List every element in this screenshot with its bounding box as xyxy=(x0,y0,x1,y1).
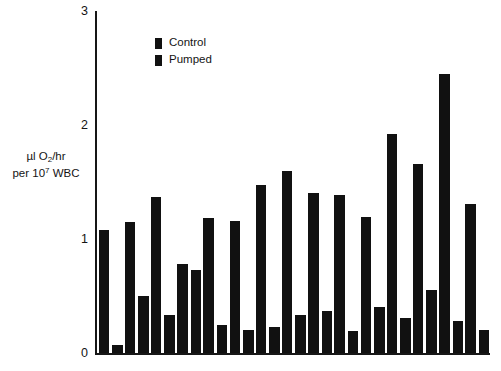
bar-control[interactable] xyxy=(439,74,450,353)
bar-control[interactable] xyxy=(387,134,398,353)
bar-pumped[interactable] xyxy=(295,315,306,353)
bar-group xyxy=(413,11,439,353)
bar-control[interactable] xyxy=(334,195,345,353)
bar-chart-figure: 0123 µl O2/hr per 107 WBC ControlPumped xyxy=(0,0,501,371)
bar-control[interactable] xyxy=(203,218,214,353)
bar-control[interactable] xyxy=(230,221,241,353)
bar-pumped[interactable] xyxy=(112,345,123,353)
y-tick-label: 3 xyxy=(62,5,88,18)
bar-pumped[interactable] xyxy=(243,330,254,353)
x-axis-line xyxy=(95,353,490,355)
bar-pumped[interactable] xyxy=(453,321,464,353)
bar-control[interactable] xyxy=(361,217,372,353)
bar-control[interactable] xyxy=(308,193,319,353)
bar-pumped[interactable] xyxy=(217,325,228,354)
y-axis-title: µl O2/hr per 107 WBC xyxy=(4,148,88,182)
bar-group xyxy=(387,11,413,353)
bar-control[interactable] xyxy=(99,230,110,353)
bar-group xyxy=(465,11,491,353)
bar-pumped[interactable] xyxy=(191,270,202,353)
bar-pumped[interactable] xyxy=(479,330,490,353)
bar-group xyxy=(256,11,282,353)
y-axis-title-line-1: µl O2/hr xyxy=(4,148,88,165)
bar-group xyxy=(151,11,177,353)
bar-group xyxy=(230,11,256,353)
bar-control[interactable] xyxy=(125,222,136,353)
bar-pumped[interactable] xyxy=(322,311,333,353)
y-tick-label: 2 xyxy=(62,119,88,132)
y-tick-label: 0 xyxy=(62,347,88,360)
bar-pumped[interactable] xyxy=(269,327,280,353)
plot-area xyxy=(97,11,490,353)
bar-group xyxy=(282,11,308,353)
bar-control[interactable] xyxy=(256,185,267,353)
bar-group xyxy=(177,11,203,353)
bar-pumped[interactable] xyxy=(400,318,411,353)
y-tick-label: 1 xyxy=(62,233,88,246)
bar-group xyxy=(334,11,360,353)
bar-group xyxy=(125,11,151,353)
bar-group xyxy=(308,11,334,353)
bar-pumped[interactable] xyxy=(164,315,175,353)
bar-group xyxy=(203,11,229,353)
bar-control[interactable] xyxy=(413,164,424,353)
bar-pumped[interactable] xyxy=(348,331,359,353)
bar-group xyxy=(361,11,387,353)
bar-control[interactable] xyxy=(151,197,162,353)
bar-pumped[interactable] xyxy=(138,296,149,353)
y-axis-title-line-2: per 107 WBC xyxy=(4,165,88,182)
bar-control[interactable] xyxy=(282,171,293,353)
bar-pumped[interactable] xyxy=(426,290,437,353)
bar-group xyxy=(99,11,125,353)
bar-control[interactable] xyxy=(465,204,476,353)
bar-group xyxy=(439,11,465,353)
bar-pumped[interactable] xyxy=(374,307,385,353)
bar-control[interactable] xyxy=(177,264,188,353)
